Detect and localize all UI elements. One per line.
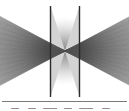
caption-cell: —: [28, 104, 36, 111]
left-band: [50, 6, 51, 97]
caption-row: — — —— — —— —: [0, 104, 129, 111]
right-band: [79, 6, 80, 97]
bowtie-diffraction-figure: [0, 0, 129, 100]
caption-cell: ——: [43, 104, 57, 111]
figure-panel: [0, 0, 129, 100]
screenshot-root: — — —— — —— —: [0, 0, 129, 111]
caption-cell: ——: [79, 104, 93, 111]
caption-cell: —: [102, 104, 111, 111]
horizontal-divider: [2, 101, 127, 102]
caption-cell: —: [11, 104, 20, 111]
caption-cell: —: [64, 104, 72, 111]
